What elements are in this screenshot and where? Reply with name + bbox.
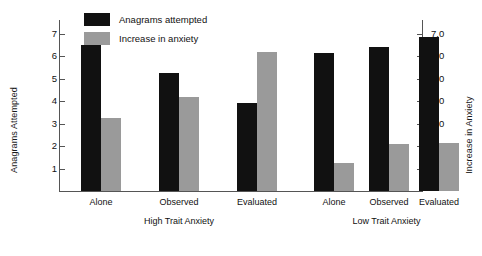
x-axis-line [59,191,423,192]
y-axis-right-tick [417,34,422,35]
bar-evaluated-anagrams-attempted [419,37,439,191]
y-axis-left-tick [60,101,65,102]
x-axis-category-label: Observed [144,197,214,207]
bar-alone-anagrams-attempted [314,53,334,191]
bar-observed-anagrams-attempted [369,47,389,191]
y-axis-left-tick-label: 5 [17,74,57,84]
y-axis-left-tick-label: 4 [17,96,57,106]
bar-observed-anagrams-attempted [159,73,179,191]
bar-evaluated-increase-in-anxiety [439,143,459,191]
bar-alone-increase-in-anxiety [334,163,354,191]
y-axis-left-tick [60,56,65,57]
y-axis-left-tick-label: 3 [17,119,57,129]
y-axis-left-tick [60,79,65,80]
y-axis-left-line [59,20,60,192]
y-axis-left-tick-label: 6 [17,51,57,61]
bar-alone-anagrams-attempted [81,45,101,191]
x-axis-category-label: Evaluated [222,197,292,207]
plot-area: 12345671.02.03.04.05.06.07.0 [59,20,423,192]
y-axis-left-tick [60,146,65,147]
y-axis-left-tick [60,34,65,35]
y-axis-left-tick-label: 2 [17,141,57,151]
x-axis-category-label: Alone [66,197,136,207]
bar-chart: Anagrams Attempted Increase in Anxiety A… [0,0,482,256]
bar-evaluated-increase-in-anxiety [257,52,277,192]
y-axis-left-tick [60,124,65,125]
x-axis-group-label: High Trait Anxiety [119,216,239,226]
y-axis-left-tick [60,169,65,170]
y-axis-left-tick-label: 1 [17,164,57,174]
x-axis-category-label: Evaluated [404,197,474,207]
y-axis-right-title: Increase in Anxiety [464,75,474,195]
bar-alone-increase-in-anxiety [101,118,121,191]
bar-observed-increase-in-anxiety [389,144,409,191]
x-axis-group-label: Low Trait Anxiety [327,216,447,226]
bar-observed-increase-in-anxiety [179,97,199,192]
y-axis-left-tick-label: 7 [17,29,57,39]
bar-evaluated-anagrams-attempted [237,103,257,191]
